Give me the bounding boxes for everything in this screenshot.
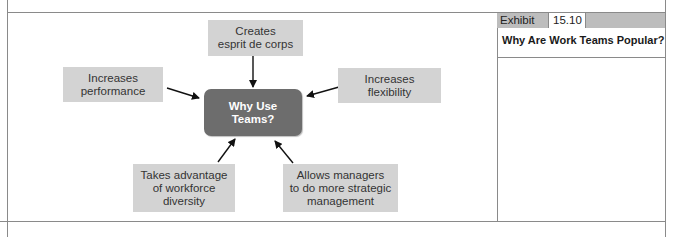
- arrow-flexibility: [307, 87, 339, 96]
- node-workforce-diversity: Takes advantageof workforcediversity: [133, 164, 235, 212]
- node-increases-flexibility: Increasesflexibility: [338, 68, 441, 103]
- arrow-performance: [167, 88, 199, 98]
- center-why-use-teams: Why UseTeams?: [204, 89, 302, 136]
- arrow-strategic: [275, 141, 293, 163]
- node-esprit-de-corps: Createsesprit de corps: [208, 20, 303, 56]
- node-increases-performance: Increasesperformance: [63, 67, 163, 102]
- node-strategic-management: Allows managersto do more strategicmanag…: [283, 164, 398, 212]
- arrow-diversity: [218, 139, 235, 162]
